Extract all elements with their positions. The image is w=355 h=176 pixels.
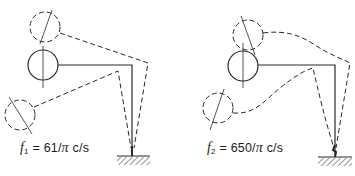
mode-1-upper-mass-axis: [40, 10, 52, 44]
mode-2-lower-mass-axis: [210, 89, 224, 130]
frequency-value: 650/: [231, 141, 256, 155]
mode-1-ground-support: [117, 146, 150, 165]
mode-2-upper-deflection-curve: [263, 32, 350, 148]
equals-sign: =: [219, 141, 227, 155]
pi-symbol: π: [62, 140, 69, 155]
frequency-subscript: 2: [211, 147, 216, 156]
pi-symbol: π: [256, 140, 263, 155]
equals-sign: =: [32, 141, 40, 155]
mode-1-lower-deflection-line: [34, 71, 131, 148]
mode-2-undeformed-frame: [228, 43, 335, 155]
mode-2-frequency-label: f2 = 650/π c/s: [207, 140, 283, 156]
frequency-value: 61/: [44, 141, 62, 155]
mode-2-lower-mass-circle: [203, 93, 233, 123]
frequency-unit: c/s: [267, 141, 284, 155]
mode-1-lower-mass-axis: [9, 97, 32, 134]
mode-1-deflected-upper: [30, 12, 148, 148]
mode-1-undeformed-frame: [28, 46, 132, 152]
mode-1-deflected-lower: [5, 71, 131, 148]
mode-1-frame-arm: [58, 65, 132, 152]
mode-2-deflected-lower: [203, 68, 334, 148]
mode-2-deflected-upper: [233, 20, 350, 148]
frequency-subscript: 1: [24, 147, 29, 156]
mode-1-upper-mass-circle: [30, 12, 60, 42]
mode-1-frequency-label: f1 = 61/π c/s: [20, 140, 89, 156]
frequency-unit: c/s: [73, 141, 90, 155]
